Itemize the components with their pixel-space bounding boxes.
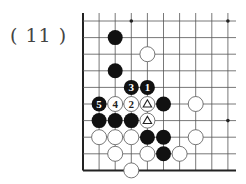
board-grid [83,13,236,170]
black-stone-body [156,146,171,161]
move-number-label: 4 [112,98,118,110]
white-stone [140,146,155,161]
white-stone-body [108,130,123,145]
white-stone-body [188,130,203,145]
black-stone [108,113,123,128]
black-stone-body [108,113,123,128]
white-stone [140,97,155,112]
black-stone [140,130,155,145]
white-stone-body [140,47,155,62]
move-number-label: 2 [129,98,135,110]
black-stone [108,30,123,45]
move-number-label: 3 [129,81,135,93]
star-point [226,19,230,23]
white-stone: 2 [124,97,139,112]
white-stone [140,113,155,128]
white-stone [188,130,203,145]
white-stone [124,130,139,145]
white-stone [108,130,123,145]
black-stone [156,130,171,145]
go-board-diagram: 31542 [0,0,246,184]
black-stone: 5 [92,97,107,112]
black-stone-body [92,113,107,128]
white-stone [108,146,123,161]
white-stone-body [140,146,155,161]
white-stone-body [108,146,123,161]
white-stone-body [172,146,187,161]
white-stone-body [124,163,139,178]
black-stone-body [156,130,171,145]
black-stone: 1 [140,80,155,95]
white-stone [124,163,139,178]
move-number-label: 1 [145,81,151,93]
black-stone-body [108,63,123,78]
star-point [226,119,230,123]
white-stone-body [124,130,139,145]
black-stone [124,113,139,128]
black-stone-body [108,30,123,45]
star-point [130,19,134,23]
move-number-label: 5 [96,98,102,110]
white-stone-body [92,130,107,145]
black-stone [156,146,171,161]
white-stone [140,47,155,62]
black-stone-body [140,130,155,145]
black-stone-body [156,97,171,112]
white-stone-body [188,97,203,112]
white-stone: 4 [108,97,123,112]
white-stone [172,146,187,161]
black-stone: 3 [124,80,139,95]
black-stone [156,97,171,112]
white-stone [92,130,107,145]
black-stone [108,63,123,78]
black-stone [92,113,107,128]
white-stone [188,97,203,112]
black-stone-body [124,113,139,128]
